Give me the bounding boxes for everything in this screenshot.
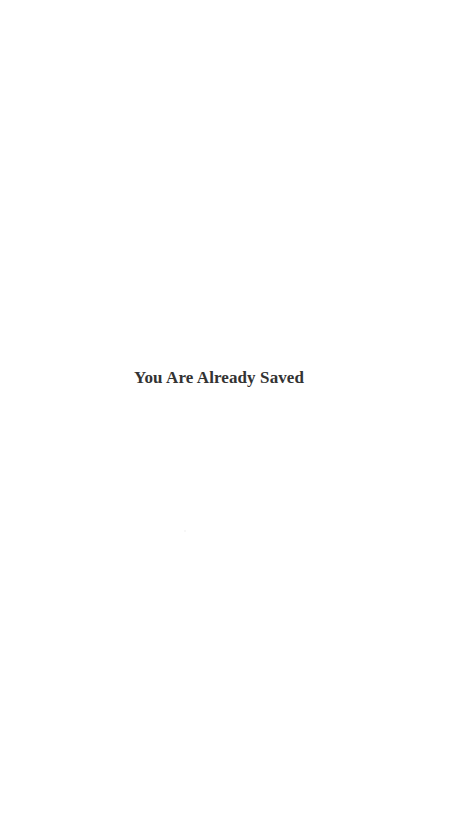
page-title: You Are Already Saved: [0, 367, 438, 389]
faint-mark: [184, 530, 186, 532]
document-page: You Are Already Saved: [0, 0, 475, 815]
